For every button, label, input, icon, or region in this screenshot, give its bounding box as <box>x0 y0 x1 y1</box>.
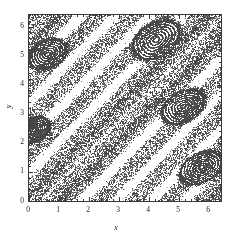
x-minor-tick-top <box>197 15 198 17</box>
y-axis-label: y <box>4 101 13 113</box>
y-minor-tick <box>29 125 31 126</box>
x-minor-tick <box>53 199 54 201</box>
y-minor-tick-right <box>219 178 221 179</box>
y-major-tick <box>29 201 33 202</box>
y-minor-tick <box>29 96 31 97</box>
y-minor-tick-right <box>219 67 221 68</box>
x-minor-tick-top <box>83 15 84 17</box>
x-minor-tick <box>77 199 78 201</box>
x-minor-tick <box>203 199 204 201</box>
y-minor-tick <box>29 108 31 109</box>
y-minor-tick <box>29 120 31 121</box>
y-tick-label: 0 <box>8 196 24 205</box>
x-major-tick <box>149 197 150 201</box>
y-tick-label: 6 <box>8 21 24 30</box>
x-major-tick-top <box>59 15 60 19</box>
y-minor-tick <box>29 62 31 63</box>
x-tick-label: 4 <box>140 205 156 214</box>
y-minor-tick-right <box>219 120 221 121</box>
x-minor-tick-top <box>203 15 204 17</box>
x-minor-tick-top <box>95 15 96 17</box>
x-minor-tick-top <box>143 15 144 17</box>
y-minor-tick <box>29 38 31 39</box>
y-minor-tick-right <box>219 166 221 167</box>
x-minor-tick-top <box>167 15 168 17</box>
x-minor-tick <box>125 199 126 201</box>
x-minor-tick <box>191 199 192 201</box>
x-minor-tick-top <box>125 15 126 17</box>
x-minor-tick <box>221 199 222 201</box>
x-minor-tick-top <box>113 15 114 17</box>
y-minor-tick <box>29 137 31 138</box>
x-tick-label: 3 <box>110 205 126 214</box>
y-minor-tick <box>29 131 31 132</box>
y-minor-tick-right <box>219 102 221 103</box>
y-minor-tick <box>29 178 31 179</box>
x-minor-tick <box>143 199 144 201</box>
y-minor-tick-right <box>219 32 221 33</box>
x-minor-tick <box>155 199 156 201</box>
y-major-tick-right <box>217 143 221 144</box>
y-minor-tick-right <box>219 44 221 45</box>
y-minor-tick <box>29 50 31 51</box>
y-major-tick <box>29 114 33 115</box>
y-minor-tick <box>29 189 31 190</box>
x-minor-tick <box>65 199 66 201</box>
x-major-tick <box>59 197 60 201</box>
y-tick-label: 4 <box>8 79 24 88</box>
y-minor-tick-right <box>219 91 221 92</box>
y-minor-tick-right <box>219 15 221 16</box>
y-minor-tick <box>29 155 31 156</box>
x-minor-tick-top <box>155 15 156 17</box>
y-minor-tick-right <box>219 131 221 132</box>
x-minor-tick-top <box>221 15 222 17</box>
y-major-tick <box>29 27 33 28</box>
x-major-tick-top <box>149 15 150 19</box>
y-minor-tick <box>29 21 31 22</box>
plot-frame <box>28 14 222 202</box>
x-tick-label: 5 <box>170 205 186 214</box>
y-minor-tick-right <box>219 21 221 22</box>
y-minor-tick <box>29 166 31 167</box>
x-minor-tick-top <box>173 15 174 17</box>
y-minor-tick-right <box>219 155 221 156</box>
y-minor-tick <box>29 67 31 68</box>
y-minor-tick-right <box>219 125 221 126</box>
x-minor-tick-top <box>53 15 54 17</box>
x-minor-tick <box>83 199 84 201</box>
x-minor-tick-top <box>47 15 48 17</box>
x-minor-tick <box>107 199 108 201</box>
y-minor-tick-right <box>219 73 221 74</box>
x-minor-tick <box>173 199 174 201</box>
x-major-tick <box>179 197 180 201</box>
x-minor-tick-top <box>131 15 132 17</box>
y-tick-label: 5 <box>8 50 24 59</box>
y-minor-tick <box>29 149 31 150</box>
y-minor-tick <box>29 15 31 16</box>
y-minor-tick <box>29 32 31 33</box>
y-major-tick-right <box>217 56 221 57</box>
y-minor-tick <box>29 184 31 185</box>
y-tick-label: 1 <box>8 166 24 175</box>
x-minor-tick <box>71 199 72 201</box>
y-major-tick <box>29 85 33 86</box>
x-minor-tick <box>95 199 96 201</box>
y-minor-tick-right <box>219 160 221 161</box>
y-minor-tick-right <box>219 96 221 97</box>
x-minor-tick <box>35 199 36 201</box>
x-minor-tick-top <box>191 15 192 17</box>
y-minor-tick-right <box>219 189 221 190</box>
y-major-tick-right <box>217 114 221 115</box>
x-minor-tick-top <box>161 15 162 17</box>
x-minor-tick <box>215 199 216 201</box>
y-major-tick <box>29 143 33 144</box>
scatter-plot-figure: 0123456 0123456 x y <box>0 0 232 244</box>
x-minor-tick-top <box>101 15 102 17</box>
y-minor-tick <box>29 102 31 103</box>
x-major-tick-top <box>179 15 180 19</box>
x-axis-label: x <box>0 223 232 232</box>
y-major-tick-right <box>217 172 221 173</box>
y-major-tick <box>29 172 33 173</box>
x-tick-label: 2 <box>80 205 96 214</box>
x-minor-tick-top <box>35 15 36 17</box>
